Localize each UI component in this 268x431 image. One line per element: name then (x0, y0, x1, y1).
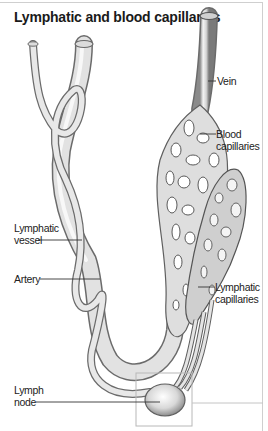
capillaries-illustration (0, 0, 268, 431)
label-blood-capillaries-line1: Blood (216, 128, 259, 140)
label-blood-capillaries-line2: capillaries (216, 140, 259, 152)
label-lymphatic-capillaries-line2: capillaries (215, 293, 260, 305)
label-lymphatic-vessel-line1: Lymphatic (14, 222, 59, 234)
lymph-node (145, 384, 185, 416)
label-lymph-node: Lymph node (14, 384, 44, 408)
label-blood-capillaries: Blood capillaries (216, 128, 259, 152)
label-lymphatic-vessel-line2: vessel (14, 234, 59, 246)
lymphatic-vessel (28, 42, 150, 394)
label-vein-text: Vein (217, 75, 236, 87)
label-artery: Artery (14, 273, 40, 285)
vein-vessel (200, 13, 218, 111)
label-lymphatic-capillaries: Lymphatic capillaries (215, 281, 260, 305)
label-lymph-node-line1: Lymph (14, 384, 44, 396)
label-lymphatic-capillaries-line1: Lymphatic (215, 281, 260, 293)
label-vein: Vein (217, 75, 236, 87)
label-lymphatic-vessel: Lymphatic vessel (14, 222, 59, 246)
label-lymph-node-line2: node (14, 396, 44, 408)
label-artery-text: Artery (14, 273, 40, 285)
